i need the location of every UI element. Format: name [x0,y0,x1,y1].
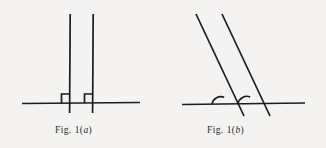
fig-a-line-1 [70,14,71,113]
caption-figure-b: Fig.1(b) [207,125,244,135]
paper-background [0,0,326,148]
geometry-diagram [0,0,326,148]
caption-a-prefix: Fig. [55,125,72,135]
caption-figure-a: Fig.1(a) [55,125,92,135]
caption-b-suffix: ) [241,125,245,135]
caption-a-suffix: ) [89,125,93,135]
fig-a-baseline [22,103,140,104]
fig-a-line-2 [93,14,94,113]
caption-b-prefix: Fig. [207,125,224,135]
figure-page: Fig.1(a) Fig.1(b) [0,0,326,148]
